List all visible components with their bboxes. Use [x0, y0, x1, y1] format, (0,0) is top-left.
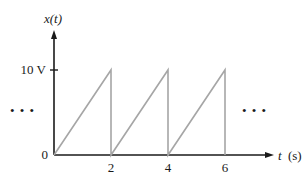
x-tick-label-2: 2 — [108, 160, 115, 175]
origin-label: 0 — [42, 147, 49, 162]
x-tick-label-6: 6 — [222, 160, 229, 175]
left-ellipsis: • • • — [10, 103, 35, 118]
sawtooth-chart: x(t) 10 V 0 2 4 6 t (s) • • • • • • — [0, 0, 308, 181]
right-ellipsis: • • • — [242, 103, 267, 118]
x-axis-arrow-icon — [265, 152, 274, 158]
x-tick-label-4: 4 — [165, 160, 172, 175]
y-tick-label-10v: 10 V — [21, 62, 47, 77]
y-axis-arrow-icon — [51, 30, 57, 39]
sawtooth-signal — [54, 70, 225, 155]
y-axis-label: x(t) — [43, 11, 62, 26]
x-axis-label: t (s) — [278, 148, 302, 163]
